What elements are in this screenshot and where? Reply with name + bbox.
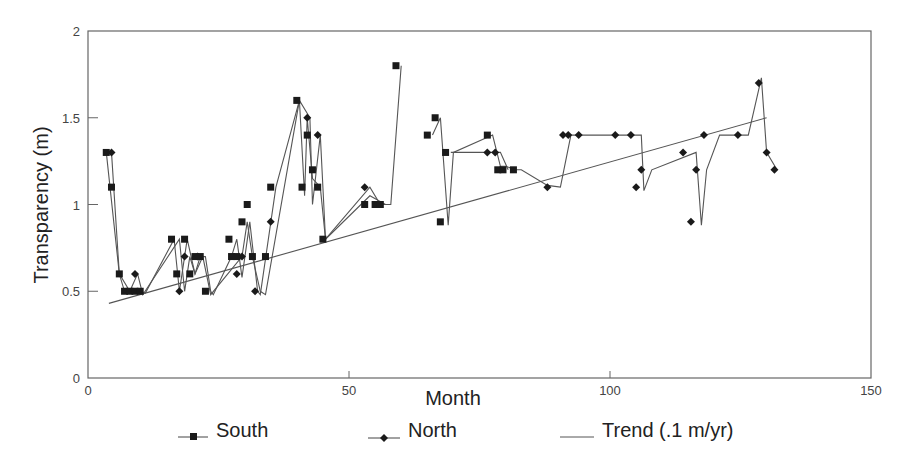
south-data-point <box>238 218 245 225</box>
x-tick-label: 150 <box>860 383 882 398</box>
south-data-point <box>510 166 517 173</box>
north-data-point <box>267 218 275 226</box>
north-data-point <box>611 131 619 139</box>
legend-item-trend: Trend (.1 m/yr) <box>560 419 734 441</box>
south-data-point <box>437 218 444 225</box>
south-data-point <box>173 270 180 277</box>
south-data-point <box>168 236 175 243</box>
x-tick-label: 100 <box>599 383 621 398</box>
north-data-point <box>700 131 708 139</box>
south-data-point <box>225 236 232 243</box>
south-data-point <box>116 270 123 277</box>
legend-label-trend: Trend (.1 m/yr) <box>602 419 734 441</box>
north-data-point <box>543 183 551 191</box>
south-data-point <box>392 62 399 69</box>
south-data-point <box>319 236 326 243</box>
transparency-chart: 00.511.52 050100150 Month Transparency (… <box>0 0 908 460</box>
x-axis: 050100150 <box>84 371 881 398</box>
north-data-point <box>734 131 742 139</box>
north-data-point <box>233 270 241 278</box>
legend: South North Trend (.1 m/yr) <box>178 419 734 442</box>
trend-line <box>109 118 767 304</box>
north-data-point <box>627 131 635 139</box>
north-data-point <box>679 148 687 156</box>
north-data-point <box>575 131 583 139</box>
north-data-point <box>564 131 572 139</box>
y-tick-label: 0 <box>73 371 80 386</box>
legend-label-north: North <box>408 419 457 441</box>
plot-frame <box>88 31 871 378</box>
south-data-point <box>432 114 439 121</box>
south-data-point <box>108 184 115 191</box>
south-data-point <box>267 184 274 191</box>
south-data-point <box>299 184 306 191</box>
north-data-point <box>632 183 640 191</box>
square-marker-icon <box>190 433 197 440</box>
x-tick-label: 50 <box>342 383 356 398</box>
y-tick-label: 0.5 <box>62 284 80 299</box>
north-data-point <box>687 218 695 226</box>
diamond-marker-icon <box>380 434 388 442</box>
north-data-point <box>770 166 778 174</box>
y-tick-label: 2 <box>73 24 80 39</box>
south-data-point <box>377 201 384 208</box>
south-data-point <box>304 132 311 139</box>
south-data-point <box>442 149 449 156</box>
north-data-point <box>763 148 771 156</box>
south-data-point <box>499 166 506 173</box>
y-tick-label: 1.5 <box>62 111 80 126</box>
south-data-point <box>361 201 368 208</box>
y-axis-title: Transparency (m) <box>30 126 52 283</box>
data-lines <box>106 66 777 295</box>
south-data-point <box>484 132 491 139</box>
x-axis-title: Month <box>425 387 481 409</box>
legend-item-south: South <box>178 419 268 441</box>
x-tick-label: 0 <box>84 383 91 398</box>
north-data-point <box>637 166 645 174</box>
y-axis: 00.511.52 <box>62 24 98 386</box>
south-data-point <box>137 288 144 295</box>
legend-item-north: North <box>368 419 457 442</box>
south-data-point <box>293 97 300 104</box>
north-data-point <box>251 287 259 295</box>
north-data-point <box>483 148 491 156</box>
y-tick-label: 1 <box>73 198 80 213</box>
north-data-point <box>692 166 700 174</box>
south-data-point <box>186 270 193 277</box>
south-data-point <box>314 184 321 191</box>
legend-label-south: South <box>216 419 268 441</box>
north-data-point <box>175 287 183 295</box>
south-data-point <box>181 236 188 243</box>
south-data-point <box>202 288 209 295</box>
south-data-point <box>424 132 431 139</box>
south-data-point <box>244 201 251 208</box>
south-data-point <box>249 253 256 260</box>
south-data-point <box>262 253 269 260</box>
south-data-point <box>309 166 316 173</box>
